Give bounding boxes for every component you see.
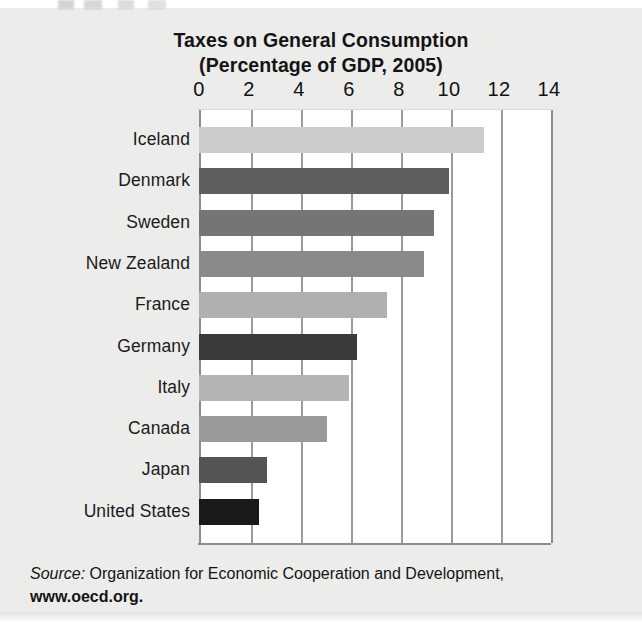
bar bbox=[199, 416, 327, 442]
bar-row: New Zealand bbox=[0, 251, 642, 277]
bar-category-label: Iceland bbox=[133, 129, 190, 150]
source-url: www.oecd.org. bbox=[30, 585, 620, 608]
x-axis-tick-labels: 02468101214 bbox=[0, 78, 642, 106]
bar bbox=[199, 127, 484, 153]
x-tick-label: 4 bbox=[293, 78, 305, 101]
bar-row: Canada bbox=[0, 416, 642, 442]
x-tick-label: 0 bbox=[193, 78, 205, 101]
bar-category-label: United States bbox=[84, 501, 190, 522]
bar-category-label: Denmark bbox=[118, 170, 190, 191]
bar-category-label: New Zealand bbox=[86, 253, 190, 274]
figure-page: Taxes on General Consumption (Percentage… bbox=[0, 0, 642, 637]
bar bbox=[199, 375, 349, 401]
bar-category-label: France bbox=[135, 294, 190, 315]
bar bbox=[199, 292, 387, 318]
bar-row: United States bbox=[0, 499, 642, 525]
source-text: Organization for Economic Cooperation an… bbox=[85, 565, 504, 582]
bar-row: Iceland bbox=[0, 127, 642, 153]
bar-row: Denmark bbox=[0, 168, 642, 194]
source-note: Source: Organization for Economic Cooper… bbox=[30, 562, 620, 608]
bar bbox=[199, 251, 424, 277]
bar-category-label: Germany bbox=[117, 336, 190, 357]
bar bbox=[199, 457, 267, 483]
x-tick-label: 14 bbox=[537, 78, 560, 101]
bar-category-label: Japan bbox=[142, 459, 190, 480]
chart-title: Taxes on General Consumption (Percentage… bbox=[0, 28, 642, 78]
bar-row: Germany bbox=[0, 334, 642, 360]
bar-category-label: Sweden bbox=[126, 212, 190, 233]
bar-row: Japan bbox=[0, 457, 642, 483]
plot-frame-bottom bbox=[198, 543, 551, 545]
bar bbox=[199, 334, 357, 360]
chart-title-line1: Taxes on General Consumption bbox=[174, 29, 469, 51]
bar bbox=[199, 210, 434, 236]
bar bbox=[199, 499, 259, 525]
bar-category-label: Italy bbox=[157, 377, 190, 398]
panel-bottom-edge bbox=[0, 612, 642, 622]
cropped-text-fragment bbox=[58, 0, 178, 9]
x-tick-label: 8 bbox=[393, 78, 405, 101]
chart-title-line2: (Percentage of GDP, 2005) bbox=[0, 53, 642, 78]
bar bbox=[199, 168, 449, 194]
x-tick-label: 6 bbox=[343, 78, 355, 101]
source-label: Source: bbox=[30, 565, 85, 582]
bar-category-label: Canada bbox=[128, 418, 190, 439]
bar-row: France bbox=[0, 292, 642, 318]
x-tick-label: 10 bbox=[437, 78, 460, 101]
bar-row: Sweden bbox=[0, 210, 642, 236]
bar-row: Italy bbox=[0, 375, 642, 401]
x-tick-label: 12 bbox=[487, 78, 510, 101]
x-tick-label: 2 bbox=[243, 78, 255, 101]
